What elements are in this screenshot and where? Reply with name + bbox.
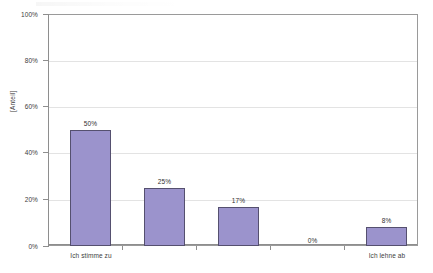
bar-value-4: 0% [292, 237, 333, 244]
bar-chart: 100% 80% 60% 40% 20% 0% [Anteil] 50% 25%… [0, 0, 433, 273]
bar-value-1: 50% [70, 120, 111, 127]
y-tick-40 [43, 152, 48, 153]
bar-value-3: 17% [218, 197, 259, 204]
y-axis-title: [Anteil] [9, 91, 16, 112]
y-tick-label-80: 80% [2, 57, 38, 64]
x-label-category-5: Ich lehne ab [346, 252, 428, 259]
scan-artifact [36, 2, 186, 6]
bar-1[interactable] [70, 130, 111, 246]
y-tick-80 [43, 60, 48, 61]
x-tick-boundary-2 [196, 246, 197, 250]
bar-5[interactable] [366, 227, 407, 246]
gridline-80 [49, 61, 417, 62]
x-tick-boundary-4 [344, 246, 345, 250]
y-tick-label-60: 60% [2, 103, 38, 110]
bar-3[interactable] [218, 207, 259, 246]
y-tick-20 [43, 199, 48, 200]
bar-2[interactable] [144, 188, 185, 246]
y-tick-label-0: 0% [2, 243, 38, 250]
x-tick-boundary-3 [270, 246, 271, 250]
y-tick-60 [43, 106, 48, 107]
x-tick-boundary-1 [122, 246, 123, 250]
y-tick-label-100: 100% [2, 11, 38, 18]
y-tick-0 [43, 246, 48, 247]
y-axis-line [48, 14, 49, 247]
bar-value-5: 8% [366, 217, 407, 224]
y-tick-label-40: 40% [2, 149, 38, 156]
gridline-60 [49, 107, 417, 108]
y-tick-100 [43, 14, 48, 15]
bar-value-2: 25% [144, 178, 185, 185]
x-label-category-1: Ich stimme zu [50, 252, 132, 259]
y-tick-label-20: 20% [2, 196, 38, 203]
